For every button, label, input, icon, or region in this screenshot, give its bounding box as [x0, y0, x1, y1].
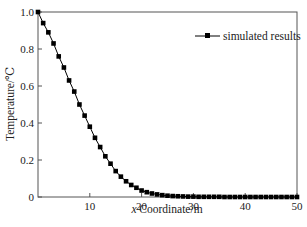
data-point-square-marker: [113, 169, 118, 174]
data-point-square-marker: [62, 65, 67, 70]
data-point-square-marker: [274, 195, 279, 200]
legend: simulated results: [195, 30, 301, 42]
data-point-square-marker: [248, 195, 253, 200]
data-point-square-marker: [243, 195, 248, 200]
data-point-square-marker: [295, 195, 300, 200]
x-axis-title-unit: Coordinate/m: [136, 203, 202, 215]
data-point-square-marker: [155, 192, 160, 197]
legend-square-marker-icon: [205, 33, 210, 38]
data-point-square-marker: [129, 183, 134, 188]
data-point-square-marker: [233, 195, 238, 200]
data-point-square-marker: [88, 124, 93, 129]
temperature-chart: 00.20.40.60.81.0 1020304050 simulated re…: [0, 0, 307, 227]
y-tick-label: 0.6: [20, 80, 34, 92]
data-point-square-marker: [238, 195, 243, 200]
data-point-square-marker: [284, 195, 289, 200]
data-point-square-marker: [290, 195, 295, 200]
y-tick-label: 0.8: [20, 43, 34, 55]
legend-label: simulated results: [223, 30, 301, 42]
data-point-square-marker: [222, 195, 227, 200]
data-point-square-marker: [139, 188, 144, 193]
data-point-square-marker: [258, 195, 263, 200]
data-point-square-marker: [108, 161, 113, 166]
data-point-square-marker: [196, 195, 201, 200]
data-point-square-marker: [150, 191, 155, 196]
data-point-square-marker: [77, 102, 82, 107]
data-point-square-marker: [119, 174, 124, 179]
data-point-square-marker: [264, 195, 269, 200]
data-point-square-marker: [181, 194, 186, 199]
data-point-square-marker: [36, 10, 41, 15]
data-point-square-marker: [67, 78, 72, 83]
data-point-square-marker: [227, 195, 232, 200]
data-point-square-marker: [212, 195, 217, 200]
data-point-square-marker: [191, 194, 196, 199]
x-tick-label: 50: [292, 200, 304, 212]
x-axis-title: x Coordinate/m: [130, 203, 202, 215]
y-axis: 00.20.40.60.81.0: [20, 6, 42, 203]
data-point-square-marker: [279, 195, 284, 200]
data-point-square-marker: [124, 179, 129, 184]
x-tick-label: 40: [240, 200, 252, 212]
y-tick-label: 0.2: [20, 154, 34, 166]
data-point-square-marker: [176, 194, 181, 199]
data-point-square-marker: [82, 113, 87, 118]
y-tick-label: 0: [29, 191, 35, 203]
data-point-square-marker: [41, 21, 46, 26]
x-tick-label: 10: [84, 200, 96, 212]
data-point-square-marker: [56, 54, 61, 59]
data-point-square-marker: [46, 30, 51, 35]
data-point-square-marker: [253, 195, 258, 200]
data-point-square-marker: [134, 185, 139, 190]
data-point-square-marker: [144, 190, 149, 195]
y-tick-label: 0.4: [20, 117, 34, 129]
data-point-square-marker: [51, 41, 56, 46]
y-tick-label: 1.0: [20, 6, 34, 18]
data-point-square-marker: [93, 136, 98, 141]
data-point-square-marker: [160, 193, 165, 198]
data-point-square-marker: [72, 89, 77, 94]
data-point-square-marker: [201, 195, 206, 200]
data-point-square-marker: [103, 154, 108, 159]
data-point-square-marker: [98, 145, 103, 150]
data-point-square-marker: [269, 195, 274, 200]
data-point-square-marker: [170, 194, 175, 199]
y-axis-title: Temperature/℃: [4, 67, 17, 141]
data-point-square-marker: [186, 194, 191, 199]
data-point-square-marker: [207, 195, 212, 200]
data-point-square-marker: [217, 195, 222, 200]
data-point-square-marker: [165, 193, 170, 198]
